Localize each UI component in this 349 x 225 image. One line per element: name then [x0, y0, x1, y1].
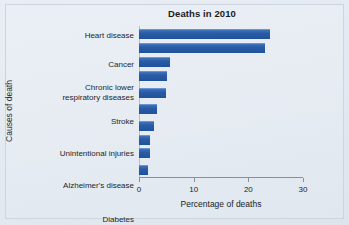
bar-row: Chronic lower respiratory diseases	[139, 57, 303, 67]
plot-area: 0102030Heart diseaseCancerChronic lower …	[139, 26, 303, 178]
bar-row: Heart disease	[139, 29, 303, 39]
x-axis-tick-label: 30	[299, 185, 308, 194]
category-label: Stroke	[0, 117, 134, 126]
bar[interactable]	[139, 121, 154, 131]
bar-row: Diabetes	[139, 121, 303, 131]
chart-figure: Deaths in 2010 Causes of death 0102030He…	[0, 0, 349, 225]
bar[interactable]	[139, 165, 148, 175]
bar[interactable]	[139, 29, 270, 39]
bar-row: Nephritis, nephrotic syndrome, and nephr…	[139, 135, 303, 145]
bar[interactable]	[139, 71, 167, 81]
bar[interactable]	[139, 135, 150, 145]
x-axis-line	[139, 177, 303, 178]
x-axis-tick-label: 20	[244, 185, 253, 194]
category-label: Alzheimer's disease	[0, 181, 134, 190]
x-axis-tick-label: 10	[189, 185, 198, 194]
bar[interactable]	[139, 57, 170, 67]
x-axis-title: Percentage of deaths	[139, 199, 303, 209]
category-label: Heart disease	[0, 31, 134, 40]
x-axis-tick	[194, 178, 195, 182]
bar-row: Stroke	[139, 71, 303, 81]
category-label: Cancer	[0, 60, 134, 69]
bar[interactable]	[139, 148, 150, 158]
x-axis-tick-label: 0	[137, 185, 141, 194]
bar-row: Suicide	[139, 165, 303, 175]
category-label: Unintentional injuries	[0, 149, 134, 158]
x-axis-tick	[248, 178, 249, 182]
bar[interactable]	[139, 43, 265, 53]
bar-row: Cancer	[139, 43, 303, 53]
chart-title: Deaths in 2010	[0, 8, 349, 19]
bar-row: Influenza and pneumonia	[139, 148, 303, 158]
x-axis-tick	[303, 178, 304, 182]
x-axis-tick	[139, 178, 140, 182]
bar[interactable]	[139, 104, 157, 114]
category-label: Diabetes	[0, 215, 134, 224]
bar[interactable]	[139, 88, 166, 98]
category-label: Chronic lower respiratory diseases	[0, 83, 134, 101]
bar-row: Unintentional injuries	[139, 88, 303, 98]
bar-row: Alzheimer's disease	[139, 104, 303, 114]
